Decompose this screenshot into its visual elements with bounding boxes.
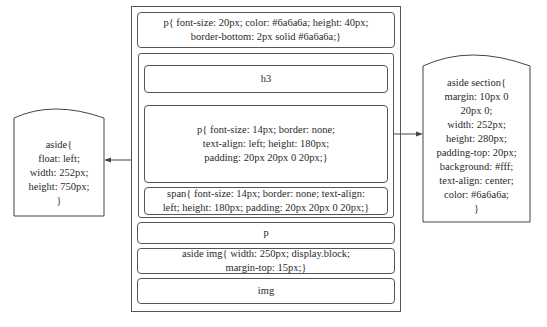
img-box: img [137,278,395,304]
img-rule-box: aside img{ width: 250px; display.block; … [137,248,395,274]
h3-text: h3 [261,72,272,86]
p-rule-box: p{ font-size: 14px; border: none; text-a… [144,105,388,183]
left-aside-text: aside{ float: left; width: 252px; height… [14,138,104,208]
arrow-right-icon [416,132,423,137]
p-box: p [137,222,395,244]
h3-box: h3 [144,65,388,93]
header-p-text: p{ font-size: 20px; color: #6a6a6a; heig… [163,16,368,44]
arrow-left-icon [104,158,111,163]
right-aside-text: aside section{ margin: 10px 0 20px 0; wi… [423,76,530,216]
span-rule-text: span{ font-size: 14px; border: none; tex… [163,187,370,215]
img-text: img [258,284,274,298]
span-rule-box: span{ font-size: 14px; border: none; tex… [144,187,388,215]
header-p-box: p{ font-size: 20px; color: #6a6a6a; heig… [137,12,395,48]
p-text: p [263,226,268,240]
img-rule-text: aside img{ width: 250px; display.block; … [182,247,350,275]
p-rule-text: p{ font-size: 14px; border: none; text-a… [197,123,335,165]
